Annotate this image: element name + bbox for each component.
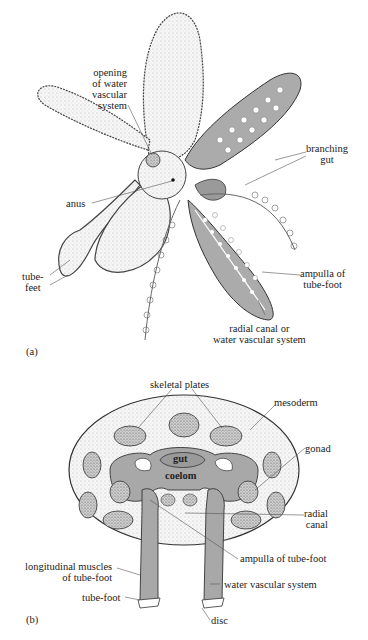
- label-skeletal-plates: skeletal plates: [150, 379, 209, 390]
- label-line: of tube-foot: [25, 572, 112, 583]
- central-disc: [138, 151, 186, 199]
- label-disc: disc: [211, 615, 228, 626]
- gonad-left: [110, 481, 130, 503]
- label-ampulla-b: ampulla of tube-foot: [240, 553, 326, 564]
- label-radial-canal-b: radial canal: [304, 508, 328, 530]
- label-line: system: [92, 100, 127, 111]
- label-branching-gut: branching gut: [306, 143, 348, 165]
- label-line: water vascular system: [213, 334, 306, 345]
- gonad-right: [238, 481, 258, 503]
- label-opening-water-vascular: opening of water vascular system: [92, 67, 127, 111]
- label-gonad: gonad: [305, 443, 331, 454]
- label-line: radial canal or: [213, 323, 306, 334]
- label-line: feet: [22, 282, 44, 293]
- label-longitudinal-muscles: longitudinal muscles of tube-foot: [25, 561, 112, 583]
- label-coelom: coelom: [165, 470, 197, 481]
- label-line: tube-foot: [300, 279, 345, 290]
- label-tube-foot: tube-foot: [82, 592, 121, 603]
- tube-foot-right: [204, 489, 224, 605]
- gut-lobe: [195, 179, 226, 200]
- label-tube-feet: tube- feet: [22, 271, 44, 293]
- label-line: radial: [304, 508, 328, 519]
- label-line: branching: [306, 143, 348, 154]
- label-line: longitudinal muscles: [25, 561, 112, 572]
- label-line: canal: [304, 519, 328, 530]
- panel-b-tag: (b): [26, 614, 38, 625]
- arm-top: [143, 13, 203, 162]
- label-ampulla-a: ampulla of tube-foot: [300, 268, 345, 290]
- starfish-drawing: [38, 13, 301, 340]
- label-line: ampulla of: [300, 268, 345, 279]
- madreporite: [146, 153, 160, 167]
- label-anus: anus: [66, 198, 85, 209]
- label-line: tube-: [22, 271, 44, 282]
- label-line: gut: [306, 154, 348, 165]
- label-line: vascular: [92, 89, 127, 100]
- label-radial-canal-a: radial canal or water vascular system: [213, 323, 306, 345]
- label-gut: gut: [173, 453, 188, 464]
- starfish-anatomy-figure: [0, 0, 368, 640]
- label-mesoderm: mesoderm: [274, 397, 318, 408]
- label-water-vascular-system: water vascular system: [224, 579, 317, 590]
- panel-a-tag: (a): [26, 346, 38, 357]
- label-line: opening: [92, 67, 127, 78]
- label-line: of water: [92, 78, 127, 89]
- tube-foot-left: [140, 489, 158, 605]
